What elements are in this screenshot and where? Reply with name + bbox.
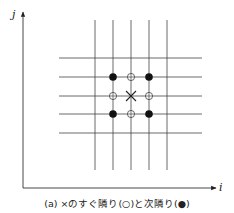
lattice-diagram (0, 0, 234, 213)
x-axis-label: i (219, 181, 223, 194)
y-axis-label: j (12, 8, 15, 21)
figure-caption: (a) ×のすぐ隣り(○)と次隣り(●) (0, 196, 234, 210)
